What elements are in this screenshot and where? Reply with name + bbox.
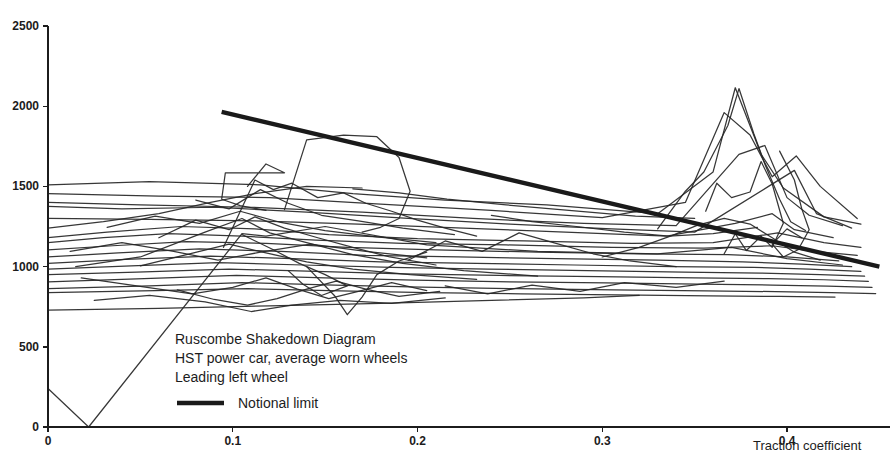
annotation-note: Leading left wheel — [175, 369, 288, 385]
notional-limit-line — [222, 112, 880, 267]
x-axis-title: Traction coefficient — [753, 438, 862, 453]
x-tick-label-0_2: 0.2 — [409, 434, 426, 448]
x-tick-labels: 00.10.20.30.4 — [45, 434, 796, 448]
x-tick-label-0_1: 0.1 — [224, 434, 241, 448]
series-shakedown-trace-02 — [48, 88, 861, 224]
y-tick-label-2000: 2000 — [12, 99, 39, 113]
y-tick-label-1000: 1000 — [12, 260, 39, 274]
shakedown-diagram: 05001000150020002500 00.10.20.30.4 Tract… — [0, 0, 894, 466]
series-shakedown-trace-13 — [48, 269, 868, 281]
y-tick-labels: 05001000150020002500 — [12, 19, 39, 434]
series-shakedown-trace-26 — [81, 278, 426, 299]
chart-canvas: 05001000150020002500 00.10.20.30.4 Tract… — [0, 0, 894, 466]
y-tick-label-2500: 2500 — [12, 19, 39, 33]
plot-traces — [48, 88, 876, 427]
series-shakedown-trace-27 — [159, 217, 436, 265]
annotation-subtitle: HST power car, average worn wheels — [175, 350, 407, 366]
series-notional-limit — [222, 112, 880, 267]
legend: Notional limit — [177, 395, 318, 411]
x-tick-label-0_3: 0.3 — [594, 434, 611, 448]
y-tick-label-1500: 1500 — [12, 179, 39, 193]
annotation-title: Ruscombe Shakedown Diagram — [175, 331, 376, 347]
x-tick-label-0: 0 — [45, 434, 52, 448]
y-tick-label-0: 0 — [32, 420, 39, 434]
series-shakedown-trace-17 — [48, 295, 639, 310]
series-shakedown-trace-20 — [222, 164, 285, 211]
y-tick-label-500: 500 — [19, 340, 39, 354]
series-shakedown-trace-05 — [48, 170, 852, 232]
series-shakedown-trace-08 — [48, 234, 857, 256]
page-caption-ghost — [0, 452, 894, 466]
legend-label-notional-limit: Notional limit — [238, 395, 318, 411]
